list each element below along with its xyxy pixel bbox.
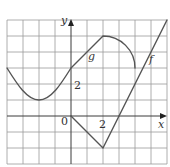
g-curve-label: g xyxy=(88,50,95,63)
function-graph: y x 0 2 2 g f xyxy=(0,0,170,167)
x-tick-label-2: 2 xyxy=(99,118,106,131)
x-axis-label: x xyxy=(158,118,165,131)
y-tick-label-2: 2 xyxy=(74,79,81,92)
f-curve-label: f xyxy=(148,53,155,66)
grid xyxy=(7,20,167,164)
y-axis-label: y xyxy=(60,14,68,27)
origin-label: 0 xyxy=(61,115,68,128)
